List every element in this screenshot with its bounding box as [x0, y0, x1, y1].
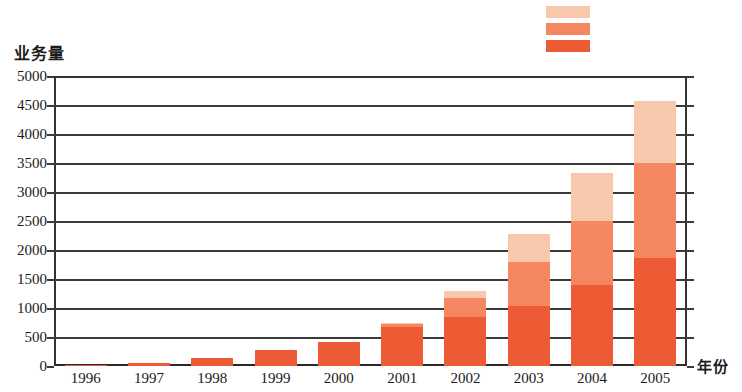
bar-stack[interactable] — [444, 291, 486, 366]
y-axis-tick-mark-right — [687, 221, 694, 223]
bar-stack[interactable] — [255, 350, 297, 366]
bar-segment-series-1[interactable] — [571, 285, 613, 366]
bar-stack[interactable] — [128, 363, 170, 366]
x-axis-tick-label: 2003 — [514, 370, 544, 387]
bar-segment-series-3[interactable] — [508, 234, 550, 262]
bar-segment-series-3[interactable] — [634, 101, 676, 163]
legend-swatch-medium — [546, 23, 590, 35]
y-axis-tick-label: 500 — [25, 329, 48, 346]
y-axis-tick-mark — [47, 105, 54, 107]
x-axis-tick-label: 1999 — [261, 370, 291, 387]
plot-area: 0500100015002000250030003500400045005000 — [54, 76, 687, 366]
bar-segment-series-1[interactable] — [634, 258, 676, 366]
y-axis-title: 业务量 — [14, 40, 65, 64]
y-axis-tick-mark — [47, 76, 54, 78]
bar-stack[interactable] — [381, 323, 423, 366]
y-axis-tick-label: 2000 — [17, 242, 47, 259]
y-axis-tick-mark-right — [687, 337, 694, 339]
bar-segment-series-1[interactable] — [191, 358, 233, 366]
legend-swatch-dark — [546, 40, 590, 52]
y-axis-tick-label: 2500 — [17, 213, 47, 230]
bar-chart: 业务量 年份 050010001500200025003000350040004… — [0, 0, 742, 392]
x-axis-tick-label: 2002 — [450, 370, 480, 387]
bar-segment-series-2[interactable] — [634, 163, 676, 258]
bar-segment-series-2[interactable] — [444, 298, 486, 317]
x-axis-tick-label: 2000 — [324, 370, 354, 387]
bar-segment-series-2[interactable] — [571, 221, 613, 285]
x-axis-tick-label: 1997 — [134, 370, 164, 387]
x-axis-tick-label: 1998 — [197, 370, 227, 387]
bar-segment-series-1[interactable] — [255, 350, 297, 366]
bar-stack[interactable] — [571, 173, 613, 366]
chart-legend — [546, 6, 590, 52]
y-axis-tick-mark — [47, 337, 54, 339]
y-axis-tick-mark — [47, 279, 54, 281]
y-axis-tick-mark-right — [687, 163, 694, 165]
y-axis-tick-mark — [47, 250, 54, 252]
y-axis-tick-mark — [47, 134, 54, 136]
y-axis-tick-mark-right — [687, 279, 694, 281]
y-axis-tick-label: 3000 — [17, 184, 47, 201]
y-axis-tick-label: 0 — [40, 358, 48, 375]
y-axis-tick-mark-right — [687, 105, 694, 107]
x-axis-tick-label: 1996 — [71, 370, 101, 387]
x-axis-tick-label: 2005 — [640, 370, 670, 387]
x-axis-tick-label: 2004 — [577, 370, 607, 387]
y-axis-tick-mark-right — [687, 250, 694, 252]
y-axis-tick-mark — [47, 163, 54, 165]
y-axis-tick-mark — [47, 221, 54, 223]
y-axis-tick-label: 4500 — [17, 97, 47, 114]
gridline — [54, 134, 687, 136]
bar-stack[interactable] — [65, 365, 107, 366]
y-axis-tick-mark-right — [687, 366, 694, 368]
y-axis-tick-label: 3500 — [17, 155, 47, 172]
y-axis-tick-label: 1000 — [17, 300, 47, 317]
gridline — [54, 105, 687, 107]
bar-segment-series-1[interactable] — [381, 327, 423, 366]
bar-stack[interactable] — [191, 358, 233, 366]
y-axis-tick-mark-right — [687, 76, 694, 78]
gridline — [54, 163, 687, 165]
bar-stack[interactable] — [508, 234, 550, 366]
bar-segment-series-2[interactable] — [508, 262, 550, 307]
bar-stack[interactable] — [318, 342, 360, 366]
y-axis-tick-mark-right — [687, 134, 694, 136]
bar-stack[interactable] — [634, 101, 676, 366]
bar-segment-series-1[interactable] — [318, 342, 360, 366]
bar-segment-series-1[interactable] — [128, 363, 170, 366]
y-axis-tick-mark-right — [687, 308, 694, 310]
bar-segment-series-1[interactable] — [444, 317, 486, 366]
x-axis-tick-label: 2001 — [387, 370, 417, 387]
y-axis-tick-label: 1500 — [17, 271, 47, 288]
y-axis-tick-label: 4000 — [17, 126, 47, 143]
x-axis-title: 年份 — [697, 355, 729, 376]
bar-segment-series-3[interactable] — [571, 173, 613, 221]
bar-segment-series-1[interactable] — [65, 365, 107, 366]
y-axis-tick-mark-right — [687, 192, 694, 194]
y-axis-tick-label: 5000 — [17, 68, 47, 85]
y-axis-tick-mark — [47, 192, 54, 194]
legend-swatch-light — [546, 6, 590, 18]
y-axis-tick-mark — [47, 308, 54, 310]
y-axis-tick-mark — [47, 366, 54, 368]
bar-segment-series-1[interactable] — [508, 306, 550, 366]
